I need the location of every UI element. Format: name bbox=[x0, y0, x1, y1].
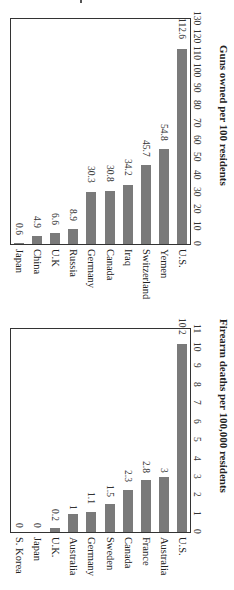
value-label: 8.9 bbox=[68, 209, 78, 221]
value-label: 4.9 bbox=[32, 216, 42, 228]
value-label: 0.2 bbox=[50, 509, 60, 521]
axis-tick-label: 3 bbox=[192, 474, 202, 479]
bar bbox=[177, 49, 187, 244]
axis-tick-label: 2 bbox=[192, 492, 202, 497]
axis-title: Guns owned per 100 residents bbox=[218, 45, 230, 186]
bar bbox=[177, 344, 187, 532]
category-label: S. Korea bbox=[14, 537, 25, 574]
value-label: 2.3 bbox=[123, 470, 133, 482]
axis-tick-label: 90 bbox=[192, 83, 202, 93]
value-label: 0.6 bbox=[14, 223, 24, 235]
category-label: France bbox=[141, 537, 152, 566]
axis-tick-label: 8 bbox=[192, 382, 202, 387]
category-label: U.K. bbox=[50, 537, 61, 557]
axis-tick-label: 7 bbox=[192, 400, 202, 405]
value-label: 30.3 bbox=[86, 166, 96, 183]
bar bbox=[68, 514, 78, 532]
value-label: 1 bbox=[68, 505, 78, 510]
page-mark bbox=[80, 0, 82, 3]
category-label: Australia bbox=[159, 537, 170, 576]
bar bbox=[86, 512, 96, 532]
axis-tick-label: 0 bbox=[192, 529, 202, 534]
bar bbox=[105, 504, 115, 532]
bar bbox=[159, 149, 169, 244]
axis-title: Firearm deaths per 100,000 residents bbox=[218, 319, 230, 493]
bar bbox=[141, 165, 151, 244]
category-label: Japan bbox=[32, 537, 43, 561]
axis-tick-label: 100 bbox=[192, 63, 202, 77]
axis-tick-label: 1 bbox=[192, 511, 202, 516]
value-label: 112.6 bbox=[177, 18, 187, 39]
category-label: Australia bbox=[68, 537, 79, 576]
category-label: Germany bbox=[86, 537, 97, 576]
category-label: Yemen bbox=[159, 249, 170, 278]
bar bbox=[123, 490, 133, 532]
axis-tick-label: 110 bbox=[192, 46, 202, 60]
bar bbox=[86, 192, 96, 244]
category-label: Switzerland bbox=[141, 249, 152, 299]
axis-tick-label: 10 bbox=[192, 221, 202, 231]
category-label: Japan bbox=[14, 249, 25, 273]
axis-tick-label: 60 bbox=[192, 135, 202, 145]
value-label: 0 bbox=[14, 523, 24, 528]
category-label: China bbox=[32, 249, 43, 274]
category-label: Russia bbox=[68, 249, 79, 277]
bar bbox=[32, 236, 42, 244]
axis-tick-label: 120 bbox=[192, 29, 202, 43]
bar bbox=[14, 243, 24, 244]
category-label: U.S. bbox=[177, 537, 188, 556]
axis-tick-label: 80 bbox=[192, 100, 202, 110]
category-label: U.S. bbox=[177, 249, 188, 268]
value-label: 45.7 bbox=[141, 140, 151, 157]
bar bbox=[159, 477, 169, 532]
category-label: Canada bbox=[105, 249, 116, 281]
category-label: Iraq bbox=[123, 249, 134, 266]
value-label: 1.1 bbox=[86, 492, 96, 504]
axis-tick-label: 40 bbox=[192, 170, 202, 180]
value-label: 30.8 bbox=[105, 165, 115, 182]
value-label: 0 bbox=[32, 523, 42, 528]
value-label: 10.2 bbox=[177, 318, 187, 335]
bar bbox=[50, 233, 60, 244]
axis-tick-label: 130 bbox=[192, 11, 202, 25]
axis-tick-label: 11 bbox=[192, 324, 202, 333]
axis-tick-label: 50 bbox=[192, 152, 202, 162]
value-label: 3 bbox=[159, 468, 169, 473]
axis-tick-label: 9 bbox=[192, 363, 202, 368]
axis-tick-label: 5 bbox=[192, 437, 202, 442]
bar bbox=[50, 528, 60, 532]
bar bbox=[68, 229, 78, 244]
category-label: Canada bbox=[123, 537, 134, 569]
axis-tick-label: 30 bbox=[192, 187, 202, 197]
axis-tick-label: 6 bbox=[192, 419, 202, 424]
value-label: 2.8 bbox=[141, 461, 151, 473]
category-label: U.K bbox=[50, 249, 61, 267]
axis-tick-label: 4 bbox=[192, 456, 202, 461]
axis-tick-label: 70 bbox=[192, 118, 202, 128]
category-label: Germany bbox=[86, 249, 97, 288]
bar bbox=[141, 480, 151, 532]
axis-tick-label: 0 bbox=[192, 241, 202, 246]
bar bbox=[123, 185, 133, 244]
value-label: 1.5 bbox=[105, 485, 115, 497]
value-label: 34.2 bbox=[123, 159, 133, 176]
axis-tick-label: 10 bbox=[192, 342, 202, 352]
axis-tick-label: 20 bbox=[192, 204, 202, 214]
value-label: 6.6 bbox=[50, 213, 60, 225]
category-label: Sweden bbox=[105, 537, 116, 570]
bar bbox=[105, 191, 115, 244]
value-label: 54.8 bbox=[159, 124, 169, 141]
